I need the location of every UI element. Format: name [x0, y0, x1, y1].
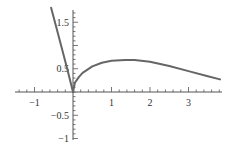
x-tick-label: 1	[109, 97, 114, 108]
axes	[15, 10, 222, 140]
y-tick-label: −1	[58, 133, 69, 144]
y-tick-label: 1.5	[57, 17, 70, 28]
x-tick-label: 2	[148, 97, 153, 108]
x-tick-label: 3	[186, 97, 191, 108]
series-line-right-branch	[73, 60, 220, 92]
ticks	[19, 13, 219, 139]
x-tick-label: −1	[29, 97, 40, 108]
plot-lines	[51, 8, 220, 92]
y-tick-label: −0.5	[51, 110, 69, 121]
chart: −11231.50.5−0.5−1	[0, 0, 234, 149]
tick-labels: −11231.50.5−0.5−1	[29, 17, 191, 144]
